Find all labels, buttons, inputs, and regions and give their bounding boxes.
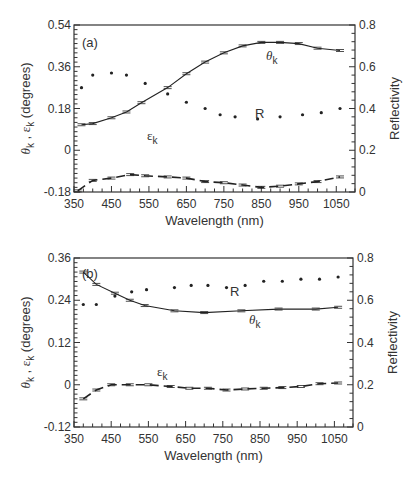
y-right-tick-label: 0.2 — [357, 378, 374, 392]
x-tick-label: 850 — [251, 197, 271, 211]
epsilon-k-label: εk — [157, 364, 168, 382]
x-tick-label: 650 — [176, 197, 196, 211]
r-data-point — [125, 74, 128, 77]
r-data-point — [190, 284, 193, 287]
r-data-point — [234, 115, 237, 118]
r-data-point — [166, 92, 169, 95]
r-data-point — [130, 290, 133, 293]
panel-label: (a) — [82, 35, 98, 50]
y-tick-label: -0.18 — [44, 185, 72, 199]
subscript-k: k — [272, 55, 278, 66]
y-tick-label: 0.36 — [48, 60, 72, 74]
r-label: R — [230, 284, 239, 299]
r-data-point — [301, 113, 304, 116]
x-tick-label: 350 — [64, 432, 84, 446]
y-right-tick-label: 0 — [357, 420, 364, 434]
r-data-point — [299, 278, 302, 281]
r-data-point — [338, 107, 341, 110]
r-data-point — [337, 275, 340, 278]
x-tick-label: 450 — [101, 432, 121, 446]
separator: , — [18, 366, 33, 377]
chart-panel-a: 3504505506507508509501050-0.1800.180.360… — [18, 18, 402, 228]
x-tick-label: 750 — [213, 432, 233, 446]
r-data-point — [318, 278, 321, 281]
subscript-k: k — [162, 371, 168, 382]
x-tick-label: 850 — [250, 432, 270, 446]
y-right-axis-title: Reflectivity — [385, 311, 400, 374]
plot-frame — [74, 25, 355, 192]
units: (degrees) — [18, 297, 33, 356]
plot-frame — [74, 258, 353, 427]
y-right-tick-label: 0.4 — [357, 336, 374, 350]
r-data-point — [113, 294, 116, 297]
r-data-point — [278, 115, 281, 118]
y-axis-title: θk , εk (degrees) — [18, 63, 36, 155]
theta-k-label: θk — [249, 312, 261, 330]
r-data-point — [80, 86, 83, 89]
x-tick-label: 450 — [101, 197, 121, 211]
y-right-tick-label: 0.6 — [359, 60, 376, 74]
r-data-point — [91, 74, 94, 77]
y-right-tick-label: 0.6 — [357, 293, 374, 307]
x-tick-label: 750 — [214, 197, 234, 211]
epsilon-k-label: εk — [147, 128, 158, 146]
subscript-k: k — [255, 319, 261, 330]
r-data-point — [173, 286, 176, 289]
r-data-point — [262, 280, 265, 283]
x-tick-label: 950 — [289, 197, 309, 211]
chart-panel-b: 3504505506507508509501050-0.1200.120.240… — [18, 251, 400, 463]
figure: 3504505506507508509501050-0.1800.180.360… — [0, 0, 413, 490]
x-tick-label: 1050 — [323, 197, 350, 211]
r-data-point — [144, 82, 147, 85]
r-data-point — [185, 101, 188, 104]
r-label: R — [255, 106, 264, 121]
y-tick-label: 0 — [64, 143, 71, 157]
y-right-tick-label: 0 — [359, 185, 366, 199]
r-data-point — [145, 288, 148, 291]
y-axis-title: θk , εk (degrees) — [18, 297, 36, 389]
y-tick-label: 0.18 — [48, 102, 72, 116]
r-data-point — [110, 71, 113, 74]
x-axis-title: Wavelength (nm) — [165, 213, 264, 228]
r-data-point — [95, 303, 98, 306]
y-tick-label: -0.12 — [44, 420, 72, 434]
y-right-tick-label: 0.8 — [359, 18, 376, 32]
y-right-axis-title: Reflectivity — [387, 77, 402, 140]
separator: , — [18, 132, 33, 143]
r-data-point — [219, 113, 222, 116]
y-right-tick-label: 0.2 — [359, 143, 376, 157]
x-tick-label: 950 — [287, 432, 307, 446]
x-tick-label: 550 — [138, 432, 158, 446]
r-data-point — [320, 111, 323, 114]
x-tick-label: 1050 — [321, 432, 348, 446]
y-tick-label: 0.36 — [48, 251, 72, 265]
y-right-tick-label: 0.8 — [357, 251, 374, 265]
r-data-point — [225, 286, 228, 289]
theta-k-label: θk — [266, 48, 278, 66]
subscript-k: k — [152, 135, 158, 146]
x-tick-label: 550 — [139, 197, 159, 211]
r-data-point — [204, 107, 207, 110]
r-data-point — [281, 280, 284, 283]
r-data-point — [244, 284, 247, 287]
theta-k-line — [82, 42, 341, 124]
y-tick-label: 0.12 — [48, 336, 72, 350]
y-right-tick-label: 0.4 — [359, 102, 376, 116]
y-tick-label: 0.54 — [48, 18, 72, 32]
y-tick-label: 0 — [64, 378, 71, 392]
x-axis-title: Wavelength (nm) — [164, 448, 263, 463]
y-tick-label: 0.24 — [48, 293, 72, 307]
x-tick-label: 650 — [176, 432, 196, 446]
r-data-point — [82, 303, 85, 306]
r-data-point — [206, 284, 209, 287]
x-tick-label: 350 — [64, 197, 84, 211]
units: (degrees) — [18, 63, 33, 122]
